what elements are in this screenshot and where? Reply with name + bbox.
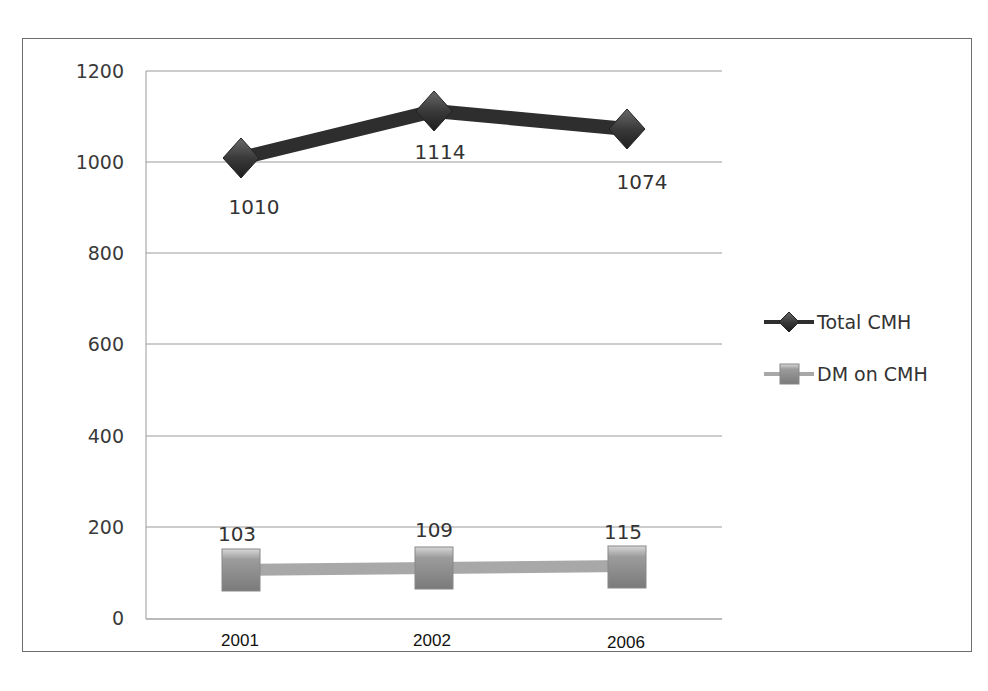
square-marker — [608, 546, 646, 588]
legend: Total CMH DM on CMH — [764, 311, 928, 385]
series-dm-on-cmh: 103 109 115 — [218, 518, 646, 591]
legend-item-dm-on-cmh: DM on CMH — [764, 363, 928, 385]
data-label: 109 — [415, 518, 453, 542]
x-tick: 2001 — [221, 631, 259, 650]
data-label: 1114 — [415, 140, 466, 164]
line-chart: 0 200 400 600 800 1000 1200 2001 2002 20… — [0, 0, 988, 691]
data-label: 1074 — [617, 170, 668, 194]
x-axis: 2001 2002 2006 — [221, 631, 645, 652]
data-label: 103 — [218, 522, 256, 546]
y-tick: 0 — [112, 607, 124, 629]
diamond-icon — [779, 312, 799, 332]
square-icon — [780, 364, 799, 384]
x-tick: 2006 — [607, 633, 645, 652]
diamond-marker — [223, 138, 259, 178]
y-axis: 0 200 400 600 800 1000 1200 — [76, 60, 124, 629]
data-label: 115 — [604, 520, 642, 544]
diamond-marker — [609, 109, 645, 149]
diamond-marker — [416, 91, 452, 131]
y-tick: 600 — [88, 333, 124, 355]
square-marker — [222, 549, 260, 591]
legend-label: Total CMH — [816, 311, 911, 333]
data-label: 1010 — [229, 195, 280, 219]
y-tick: 1000 — [76, 151, 124, 173]
y-tick: 800 — [88, 242, 124, 264]
legend-label: DM on CMH — [817, 363, 928, 385]
square-marker — [415, 547, 453, 589]
y-tick: 200 — [88, 516, 124, 538]
y-tick: 400 — [88, 425, 124, 447]
legend-item-total-cmh: Total CMH — [764, 311, 911, 333]
series-total-cmh: 1010 1114 1074 — [223, 91, 667, 219]
y-tick: 1200 — [76, 60, 124, 82]
x-tick: 2002 — [413, 631, 451, 650]
